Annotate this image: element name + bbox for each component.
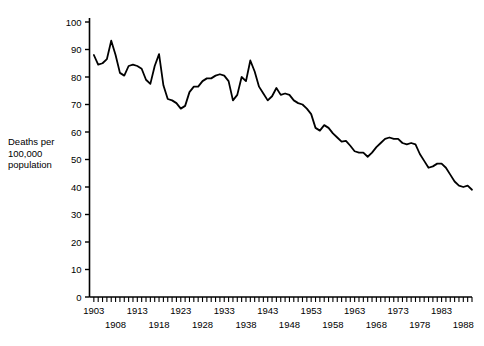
y-axis-tick-label: 10 bbox=[71, 264, 82, 275]
x-axis-tick-label: 1913 bbox=[127, 305, 148, 316]
x-axis-tick-label: 1953 bbox=[301, 305, 322, 316]
series-line bbox=[94, 41, 472, 190]
y-axis-tick-label: 40 bbox=[71, 182, 82, 193]
x-axis-tick-label: 1903 bbox=[83, 305, 104, 316]
x-axis-tick-label: 1933 bbox=[214, 305, 235, 316]
y-axis-tick-label: 30 bbox=[71, 209, 82, 220]
y-axis-tick-label: 90 bbox=[71, 44, 82, 55]
x-axis-tick-label: 1988 bbox=[453, 319, 474, 330]
line-chart: Deaths per 100,000 population 0102030405… bbox=[0, 0, 484, 346]
x-axis-tick-label: 1978 bbox=[409, 319, 430, 330]
x-axis-tick-label: 1983 bbox=[431, 305, 452, 316]
x-axis: 1903191319231933194319531963197319831908… bbox=[83, 297, 474, 330]
x-axis-tick-label: 1948 bbox=[279, 319, 300, 330]
y-axis-tick-label: 50 bbox=[71, 154, 82, 165]
x-axis-tick-label: 1963 bbox=[344, 305, 365, 316]
y-axis-tick-label: 70 bbox=[71, 99, 82, 110]
y-axis-tick-label: 100 bbox=[66, 17, 82, 28]
y-axis-tick-label: 20 bbox=[71, 237, 82, 248]
x-axis-tick-label: 1923 bbox=[170, 305, 191, 316]
y-axis: 0102030405060708090100 bbox=[66, 17, 90, 303]
x-axis-tick-label: 1973 bbox=[388, 305, 409, 316]
x-axis-tick-label: 1918 bbox=[148, 319, 169, 330]
chart-canvas: 0102030405060708090100 19031913192319331… bbox=[0, 0, 484, 346]
y-axis-tick-label: 0 bbox=[76, 292, 81, 303]
x-axis-tick-label: 1943 bbox=[257, 305, 278, 316]
x-axis-tick-label: 1908 bbox=[105, 319, 126, 330]
x-axis-tick-label: 1958 bbox=[322, 319, 343, 330]
x-axis-tick-label: 1928 bbox=[192, 319, 213, 330]
y-axis-tick-label: 80 bbox=[71, 72, 82, 83]
y-axis-tick-label: 60 bbox=[71, 127, 82, 138]
x-axis-tick-label: 1968 bbox=[366, 319, 387, 330]
data-series bbox=[94, 41, 472, 190]
x-axis-tick-label: 1938 bbox=[235, 319, 256, 330]
